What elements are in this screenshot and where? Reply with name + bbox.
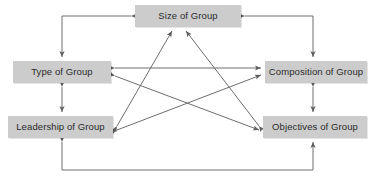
- node-composition-of-group-label: Composition of Group: [269, 67, 363, 77]
- edge-size-type: [62, 16, 131, 57]
- node-size-of-group-label: Size of Group: [158, 11, 217, 21]
- node-size-of-group[interactable]: Size of Group: [135, 5, 241, 27]
- node-type-of-group[interactable]: Type of Group: [13, 61, 111, 83]
- diagram-canvas: Size of Group Type of Group Composition …: [0, 0, 374, 181]
- node-objectives-of-group[interactable]: Objectives of Group: [263, 116, 367, 138]
- node-leadership-of-group[interactable]: Leadership of Group: [8, 116, 113, 138]
- edge-leadership-composition: [117, 75, 261, 130]
- node-leadership-of-group-label: Leadership of Group: [16, 122, 105, 132]
- edge-leadership-objectives: [62, 142, 313, 170]
- edge-size-composition: [245, 16, 313, 57]
- node-composition-of-group[interactable]: Composition of Group: [265, 61, 367, 83]
- edge-layer: [0, 0, 374, 181]
- node-type-of-group-label: Type of Group: [31, 67, 93, 77]
- edge-objectives-size: [186, 31, 259, 126]
- node-objectives-of-group-label: Objectives of Group: [272, 122, 358, 132]
